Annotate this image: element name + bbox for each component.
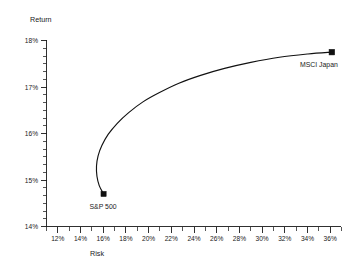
x-tick-label-14: 14% (74, 235, 87, 242)
x-tick-label-24: 24% (187, 235, 200, 242)
x-tick-label-12: 12% (51, 235, 64, 242)
y-tick-label-16: 16% (25, 130, 38, 137)
y-tick-label-18: 18% (25, 37, 38, 44)
x-tick-label-32: 32% (278, 235, 291, 242)
x-tick-label-26: 26% (210, 235, 223, 242)
x-axis-title: Risk (90, 249, 104, 258)
data-point-label-sp500: S&P 500 (90, 203, 117, 210)
x-tick-label-22: 22% (165, 235, 178, 242)
data-point-label-msci-japan: MSCI Japan (300, 61, 338, 69)
y-tick-label-15: 15% (25, 177, 38, 184)
data-point-msci-japan (329, 49, 335, 55)
x-tick-label-18: 18% (119, 235, 132, 242)
efficient-frontier-curve (96, 52, 331, 194)
y-tick-label-14: 14% (25, 223, 38, 230)
x-tick-label-28: 28% (233, 235, 246, 242)
chart-screenshot: Return 18% 17% 16% 15% 14% (0, 0, 347, 269)
data-point-sp500 (101, 191, 106, 196)
y-axis-title: Return (30, 15, 52, 24)
y-axis-ticks: 18% 17% 16% 15% 14% (25, 37, 47, 230)
x-tick-label-36: 36% (324, 235, 337, 242)
y-tick-label-17: 17% (25, 84, 38, 91)
x-tick-label-16: 16% (97, 235, 110, 242)
x-axis-ticks: 12% 14% 16% 18% 20% 22% 24% 26% 28% 30% … (51, 227, 337, 243)
x-tick-label-34: 34% (301, 235, 314, 242)
x-tick-label-20: 20% (142, 235, 155, 242)
x-tick-label-30: 30% (255, 235, 268, 242)
efficient-frontier-chart: Return 18% 17% 16% 15% 14% (0, 0, 347, 269)
